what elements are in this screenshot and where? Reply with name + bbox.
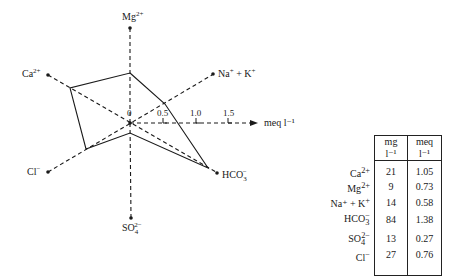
mg-value: 84 bbox=[375, 210, 408, 229]
tick-1-5: 1.5 bbox=[223, 109, 234, 118]
mg-value: 9 bbox=[375, 180, 408, 195]
ion-polygon bbox=[70, 73, 208, 168]
table-row: Mg2+ 9 0.73 bbox=[315, 180, 442, 195]
label-hco3: HCO3− bbox=[222, 170, 247, 180]
meq-value: 0.27 bbox=[408, 230, 442, 249]
meq-value: 1.38 bbox=[408, 210, 442, 229]
table-row: Ca2+ 21 1.05 bbox=[315, 161, 442, 180]
radial-ion-diagram bbox=[0, 0, 300, 247]
ion-name: HCO3− bbox=[315, 210, 375, 229]
meq-value: 1.05 bbox=[408, 161, 442, 180]
table-header-row: mg l⁻¹ meq l⁻¹ bbox=[315, 136, 442, 161]
header-ion bbox=[315, 136, 375, 161]
label-na-k: Na+ + K+ bbox=[218, 69, 255, 79]
table-row: SO42− 13 0.27 bbox=[315, 230, 442, 249]
mg-value: 13 bbox=[375, 230, 408, 249]
ion-name: SO42− bbox=[315, 230, 375, 249]
tick-0: 0 bbox=[127, 109, 132, 118]
axis-so4 bbox=[130, 123, 131, 217]
ion-name: Na⁺ + K+ bbox=[315, 195, 375, 210]
mg-value: 21 bbox=[375, 161, 408, 180]
table-row: Cl− 27 0.76 bbox=[315, 249, 442, 276]
table-row: HCO3− 84 1.38 bbox=[315, 210, 442, 229]
header-mg: mg l⁻¹ bbox=[375, 136, 408, 161]
scale-ticks bbox=[163, 118, 232, 123]
tick-1-0: 1.0 bbox=[190, 109, 201, 118]
label-ca: Ca2+ bbox=[22, 69, 41, 79]
arrow-head-icon bbox=[250, 120, 258, 126]
axes bbox=[48, 29, 252, 217]
meq-value: 0.58 bbox=[408, 195, 442, 210]
header-meq: meq l⁻¹ bbox=[408, 136, 442, 161]
label-unit: meq l⁻¹ bbox=[264, 118, 295, 128]
mg-value: 27 bbox=[375, 249, 408, 276]
ion-name: Ca2+ bbox=[315, 161, 375, 180]
meq-value: 0.76 bbox=[408, 249, 442, 276]
ion-name: Mg2+ bbox=[315, 180, 375, 195]
mg-value: 14 bbox=[375, 195, 408, 210]
table-row: Na⁺ + K+ 14 0.58 bbox=[315, 195, 442, 210]
ion-name: Cl− bbox=[315, 249, 375, 276]
label-so4: SO42− bbox=[122, 223, 142, 233]
label-cl: Cl− bbox=[27, 167, 40, 177]
meq-value: 0.73 bbox=[408, 180, 442, 195]
label-mg: Mg2+ bbox=[122, 12, 143, 22]
tick-0-5: 0.5 bbox=[157, 109, 168, 118]
ion-concentration-table: mg l⁻¹ meq l⁻¹ Ca2+ 21 1.05 Mg2+ 9 0.73 … bbox=[315, 135, 442, 276]
